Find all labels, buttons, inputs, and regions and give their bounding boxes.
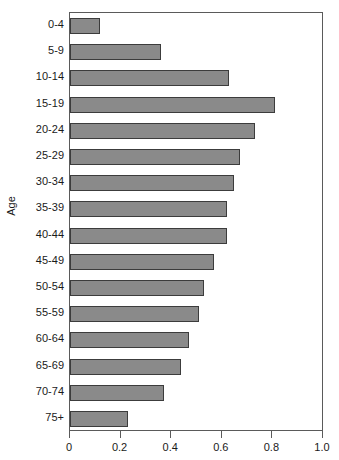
x-tick-label: 1.0 [302,441,339,453]
x-axis-ticks [69,431,323,439]
bar-75- [70,411,128,427]
bar-70-74 [70,385,164,401]
bar-40-44 [70,228,227,244]
x-tick-label: 0.4 [150,441,190,453]
y-tick-label: 25-29 [18,150,64,161]
bar-60-64 [70,332,189,348]
bar-0-4 [70,18,100,34]
y-tick-label: 55-59 [18,307,64,318]
bar-30-34 [70,175,234,191]
bar-20-24 [70,123,255,139]
y-axis-title-label: Age [5,181,17,231]
plot-area [69,12,323,431]
bar-chart: Age 0-45-910-1415-1920-2425-2930-3435-39… [0,0,339,460]
bar-35-39 [70,201,227,217]
bar-45-49 [70,254,214,270]
x-tick-mark [170,431,171,438]
y-tick-label: 45-49 [18,255,64,266]
x-tick-label: 0.2 [100,441,140,453]
bar-25-29 [70,149,240,165]
y-tick-label: 20-24 [18,124,64,135]
y-tick-label: 65-69 [18,360,64,371]
x-tick-label: 0.6 [201,441,241,453]
y-tick-label: 35-39 [18,202,64,213]
bar-55-59 [70,306,199,322]
bar-5-9 [70,44,161,60]
y-tick-label: 0-4 [18,19,64,30]
x-tick-label: 0.8 [251,441,291,453]
x-tick-label: 0 [49,441,89,453]
y-tick-label: 5-9 [18,45,64,56]
y-axis-tick-labels: 0-45-910-1415-1920-2425-2930-3435-3940-4… [20,12,68,431]
x-tick-mark [322,431,323,438]
x-tick-mark [271,431,272,438]
bar-10-14 [70,70,229,86]
y-tick-label: 10-14 [18,71,64,82]
y-tick-label: 70-74 [18,386,64,397]
y-tick-label: 50-54 [18,281,64,292]
x-tick-mark [221,431,222,438]
x-axis-tick-labels: 00.20.40.60.81.0 [69,441,323,457]
y-tick-label: 15-19 [18,98,64,109]
y-tick-label: 60-64 [18,333,64,344]
y-tick-label: 75+ [18,412,64,423]
bar-65-69 [70,359,181,375]
y-tick-label: 40-44 [18,229,64,240]
x-tick-mark [69,431,70,438]
bar-50-54 [70,280,204,296]
y-tick-label: 30-34 [18,176,64,187]
bar-15-19 [70,97,275,113]
x-tick-mark [120,431,121,438]
